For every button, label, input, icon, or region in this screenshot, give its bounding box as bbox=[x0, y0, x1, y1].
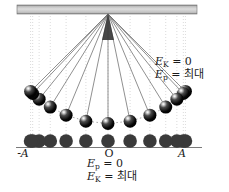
energy-label-equilibrium-line2: EK = 최대 bbox=[87, 171, 137, 184]
energy-symbol: E bbox=[155, 68, 163, 81]
axis-label-negative-amplitude: -A bbox=[12, 148, 34, 159]
energy-label-equilibrium: Ep = 0 EK = 최대 bbox=[87, 158, 137, 183]
energy-symbol: E bbox=[155, 55, 163, 68]
projection-dot bbox=[79, 134, 93, 148]
pendulum-bob bbox=[143, 109, 156, 122]
projection-dot bbox=[101, 134, 115, 148]
energy-symbol: E bbox=[87, 157, 95, 170]
pendulum-string bbox=[108, 14, 183, 93]
pendulum-bob bbox=[170, 93, 183, 106]
energy-label-extreme-line2: Ep = 최대 bbox=[155, 69, 204, 82]
pendulum-bob bbox=[44, 101, 57, 114]
pendulum-bob bbox=[79, 115, 92, 128]
pendulum-string bbox=[31, 14, 108, 91]
pendulum-bob bbox=[24, 85, 37, 98]
energy-value: = 최대 bbox=[168, 68, 204, 81]
energy-value: = 0 bbox=[169, 55, 192, 68]
pivot-knot bbox=[102, 14, 114, 41]
pendulum-bob bbox=[159, 101, 172, 114]
pendulum-bob bbox=[124, 115, 137, 128]
axis-label-origin: O bbox=[98, 148, 120, 159]
axis-label-positive-amplitude: A bbox=[171, 148, 193, 159]
projection-dot bbox=[59, 134, 73, 148]
projection-dot bbox=[24, 134, 38, 148]
pendulum-string bbox=[39, 14, 108, 99]
pendulum-energy-diagram: EK = 0 Ep = 최대 Ep = 0 EK = 최대 -A O A bbox=[0, 0, 229, 192]
pendulum-bob bbox=[60, 109, 73, 122]
projection-dot bbox=[123, 134, 137, 148]
pendulum-string bbox=[33, 14, 108, 93]
pendulum-bob bbox=[102, 117, 115, 130]
projection-dot bbox=[159, 134, 173, 148]
pendulum-string bbox=[108, 14, 150, 115]
energy-value: = 최대 bbox=[101, 170, 137, 183]
projection-dot bbox=[143, 134, 157, 148]
energy-label-extreme: EK = 0 Ep = 최대 bbox=[155, 56, 204, 81]
pendulum-string bbox=[66, 14, 108, 115]
pendulum-string bbox=[50, 14, 108, 107]
energy-symbol: E bbox=[87, 170, 95, 183]
ceiling-bar bbox=[17, 5, 197, 14]
